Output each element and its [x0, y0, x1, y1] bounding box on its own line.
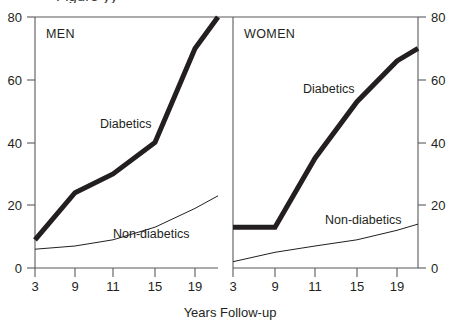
men-x-ticks: [35, 268, 195, 277]
women-x-tick-9: 9: [271, 279, 278, 294]
panel-title-men: MEN: [46, 27, 75, 41]
women-x-tick-19: 19: [390, 279, 404, 294]
panel-women: 80 60 40 20 0 3 9 11 15 19 WOMEN: [229, 10, 445, 294]
men-x-tick-15: 15: [148, 279, 162, 294]
women-y-tick-40: 40: [431, 136, 445, 151]
women-series-diabetics: [233, 48, 418, 227]
men-y-tick-80: 80: [8, 10, 22, 25]
men-x-tick-9: 9: [71, 279, 78, 294]
men-label-non-diabetics: Non-diabetics: [113, 227, 189, 241]
men-y-ticks: [27, 17, 35, 268]
men-label-diabetics: Diabetics: [100, 117, 151, 131]
x-axis-title: Years Follow-up: [184, 305, 277, 320]
women-y-tick-20: 20: [431, 198, 445, 213]
women-x-tick-11: 11: [308, 279, 322, 294]
men-x-tick-3: 3: [31, 279, 38, 294]
men-y-tick-60: 60: [8, 73, 22, 88]
chart-figure: Figure yy 80 60 40 20 0: [0, 0, 460, 326]
men-y-tick-0: 0: [15, 261, 22, 276]
women-y-tick-80: 80: [431, 10, 445, 25]
women-x-tick-3: 3: [229, 279, 236, 294]
women-x-tick-15: 15: [350, 279, 364, 294]
men-x-tick-11: 11: [106, 279, 120, 294]
women-label-non-diabetics: Non-diabetics: [325, 213, 401, 227]
women-y-ticks: [418, 17, 426, 268]
women-y-tick-60: 60: [431, 73, 445, 88]
panel-men: 80 60 40 20 0 3 9 11 15 19 MEN: [8, 10, 218, 294]
women-series-non-diabetics: [233, 224, 418, 262]
women-label-diabetics: Diabetics: [303, 82, 354, 96]
men-x-tick-19: 19: [188, 279, 202, 294]
men-y-tick-20: 20: [8, 198, 22, 213]
women-y-tick-0: 0: [431, 261, 438, 276]
panel-title-women: WOMEN: [244, 27, 295, 41]
women-x-ticks: [233, 268, 397, 277]
chart-canvas: 80 60 40 20 0 3 9 11 15 19 MEN: [0, 0, 460, 326]
men-y-tick-40: 40: [8, 136, 22, 151]
